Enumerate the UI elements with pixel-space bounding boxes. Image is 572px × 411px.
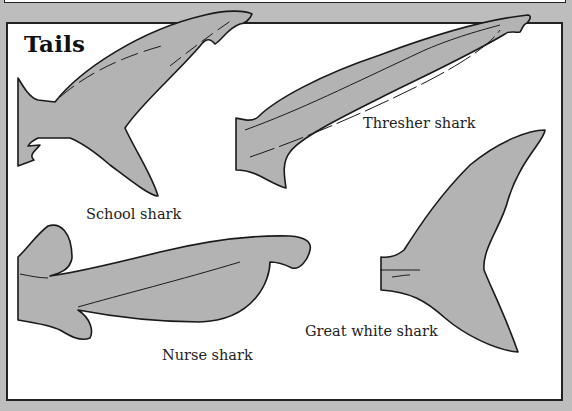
label-school-shark: School shark <box>86 206 181 222</box>
label-great-white-shark: Great white shark <box>305 323 438 339</box>
nurse-shark-tail <box>18 225 310 339</box>
label-nurse-shark: Nurse shark <box>162 347 253 363</box>
label-thresher-shark: Thresher shark <box>363 115 476 131</box>
great-white-shark-tail <box>381 130 545 352</box>
diagram-title: Tails <box>24 30 85 57</box>
